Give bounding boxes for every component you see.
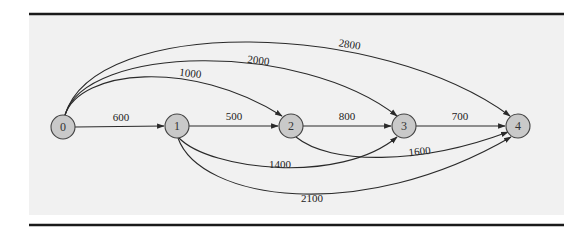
edge-label-1-2: 500 bbox=[226, 110, 243, 122]
node-label-0: 0 bbox=[60, 120, 66, 134]
edge-label-0-1: 600 bbox=[113, 111, 130, 123]
node-4: 4 bbox=[506, 114, 530, 138]
node-label-3: 3 bbox=[401, 119, 407, 133]
edge-label-3-4: 700 bbox=[452, 110, 469, 122]
node-label-2: 2 bbox=[288, 119, 294, 133]
edge-label-2-4: 1600 bbox=[408, 144, 432, 158]
node-3: 3 bbox=[392, 114, 416, 138]
edge-label-2-3: 800 bbox=[339, 110, 356, 122]
node-label-4: 4 bbox=[515, 119, 521, 133]
edge-label-1-4: 2100 bbox=[301, 192, 324, 204]
edge-label-1-3: 1400 bbox=[269, 158, 292, 170]
network-diagram: 600 500 800 700 1000 2000 2800 1400 2100… bbox=[0, 0, 579, 235]
node-2: 2 bbox=[279, 114, 303, 138]
node-label-1: 1 bbox=[174, 119, 180, 133]
node-0: 0 bbox=[51, 115, 75, 139]
edge-label-0-2: 1000 bbox=[179, 66, 203, 80]
node-1: 1 bbox=[165, 114, 189, 138]
